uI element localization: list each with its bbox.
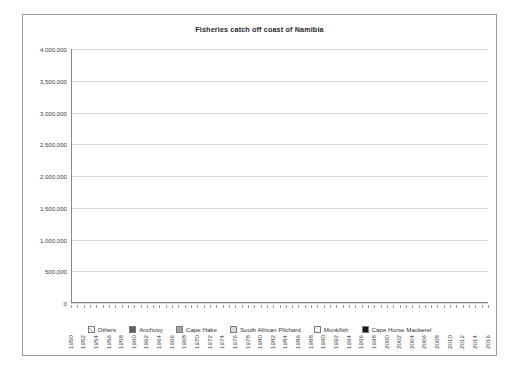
x-axis-tick [178, 305, 179, 308]
legend-item[interactable]: Anchovy [129, 326, 163, 333]
x-axis-tick [406, 305, 407, 308]
x-axis-tick [216, 305, 217, 308]
x-axis-tick [71, 305, 72, 308]
x-axis-tick-label: 2008 [433, 335, 440, 349]
x-axis-tick [280, 305, 281, 308]
x-axis-tick-label: 1960 [130, 335, 137, 349]
x-axis-tick-label: 2004 [408, 335, 415, 349]
legend-item[interactable]: Cape Hake [176, 326, 217, 333]
x-axis-tick [437, 305, 438, 308]
x-axis-tick [90, 305, 91, 308]
x-axis-tick-label: 1988 [307, 335, 314, 349]
y-axis-labels: 0500,0001,000,0001,500,0002,000,0002,500… [23, 49, 67, 303]
x-axis-tick [96, 305, 97, 308]
x-axis-tick [317, 305, 318, 308]
x-axis-tick-label: 2014 [471, 335, 478, 349]
x-axis-tick [254, 305, 255, 308]
y-axis-tick-label: 2,500,000 [40, 141, 67, 148]
x-axis-tick [298, 305, 299, 308]
x-axis-tick-label: 1984 [281, 335, 288, 349]
x-axis-tick [381, 305, 382, 308]
x-axis-tick [469, 305, 470, 308]
x-axis-tick-label: 1994 [345, 335, 352, 349]
x-axis-tick [147, 305, 148, 308]
x-axis-tick [172, 305, 173, 308]
x-axis-tick-label: 2012 [458, 335, 465, 349]
legend-swatch-icon [88, 326, 95, 333]
x-axis-tick [330, 305, 331, 308]
chart-card: Fisheries catch off coast of Namibia 050… [22, 14, 497, 356]
gridline [71, 208, 488, 209]
x-axis-tick [450, 305, 451, 308]
x-axis-tick [115, 305, 116, 308]
x-axis-tick-label: 2002 [395, 335, 402, 349]
x-axis-tick [229, 305, 230, 308]
x-axis-tick [103, 305, 104, 308]
legend-item[interactable]: Others [88, 326, 117, 333]
x-axis-tick-label: 1990 [319, 335, 326, 349]
x-axis-tick-label: 1950 [67, 335, 74, 349]
x-axis-tick-label: 2000 [383, 335, 390, 349]
gridline [71, 113, 488, 114]
legend-label: Monkfish [324, 326, 349, 333]
chart-legend: OthersAnchovyCape HakeSouth African Pilc… [23, 326, 496, 333]
x-axis-tick [235, 305, 236, 308]
x-axis-tick [456, 305, 457, 308]
x-axis-tick-label: 1964 [155, 335, 162, 349]
x-axis-tick [223, 305, 224, 308]
legend-item[interactable]: Monkfish [314, 326, 349, 333]
gridline [71, 303, 488, 304]
gridline [71, 240, 488, 241]
x-axis-tick-label: 1992 [332, 335, 339, 349]
y-axis-tick-label: 1,500,000 [40, 204, 67, 211]
x-axis-tick [210, 305, 211, 308]
x-axis-tick-label: 1998 [370, 335, 377, 349]
gridline [71, 81, 488, 82]
y-axis-line [71, 49, 72, 303]
x-axis-tick-label: 1962 [142, 335, 149, 349]
x-axis-tick [311, 305, 312, 308]
x-axis-tick-label: 1972 [206, 335, 213, 349]
legend-item[interactable]: Cape Horse Mackerel [362, 326, 432, 333]
x-axis-tick [134, 305, 135, 308]
legend-item[interactable]: South African Pilchard [230, 326, 301, 333]
legend-label: Anchovy [139, 326, 163, 333]
legend-label: South African Pilchard [240, 326, 301, 333]
x-axis-tick [355, 305, 356, 308]
x-axis-tick [77, 305, 78, 308]
gridline [71, 271, 488, 272]
plot-area [71, 49, 488, 303]
x-axis-tick [273, 305, 274, 308]
x-axis-tick-label: 1986 [294, 335, 301, 349]
x-axis-tick-label: 1952 [79, 335, 86, 349]
x-axis-tick [166, 305, 167, 308]
legend-label: Others [98, 326, 117, 333]
x-axis-tick [463, 305, 464, 308]
x-axis-tick-label: 1978 [244, 335, 251, 349]
x-axis-tick [267, 305, 268, 308]
y-axis-tick-label: 4,000,000 [40, 46, 67, 53]
y-axis-tick-label: 0 [64, 300, 67, 307]
x-axis-tick [204, 305, 205, 308]
x-axis-tick [349, 305, 350, 308]
x-axis-tick [185, 305, 186, 308]
x-axis-tick [425, 305, 426, 308]
x-axis-tick [242, 305, 243, 308]
x-axis-tick [419, 305, 420, 308]
gridline [71, 49, 488, 50]
x-axis-tick [248, 305, 249, 308]
x-axis-tick [393, 305, 394, 308]
x-axis-tick [444, 305, 445, 308]
legend-swatch-icon [362, 326, 369, 333]
x-axis-tick [153, 305, 154, 308]
x-axis-tick [84, 305, 85, 308]
x-axis-tick [159, 305, 160, 308]
x-axis-tick-label: 1982 [269, 335, 276, 349]
x-axis-tick [387, 305, 388, 308]
x-axis-tick [343, 305, 344, 308]
x-axis-tick [431, 305, 432, 308]
y-axis-tick-label: 3,000,000 [40, 109, 67, 116]
y-axis-tick-label: 500,000 [45, 268, 67, 275]
x-axis-tick-label: 1970 [193, 335, 200, 349]
legend-label: Cape Hake [186, 326, 217, 333]
